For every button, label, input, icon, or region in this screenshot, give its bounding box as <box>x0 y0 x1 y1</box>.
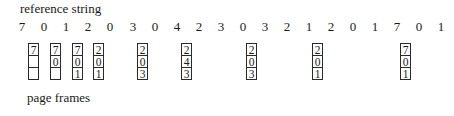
frame-cell: 3 <box>246 67 257 80</box>
frame-column: 7 0 1 <box>400 43 411 80</box>
frame-column: 2 0 3 <box>246 43 257 80</box>
reference-item: 2 <box>83 20 93 34</box>
reference-string-row: 7 0 1 2 0 3 0 4 2 3 0 3 2 1 2 0 1 7 0 1 <box>0 20 454 34</box>
page-frames-label: page frames <box>27 91 90 105</box>
reference-item: 0 <box>348 20 358 34</box>
frame-column: 2 4 3 <box>181 43 192 80</box>
reference-string-label: reference string <box>20 2 101 16</box>
frame-cell: 3 <box>181 67 192 80</box>
frame-column: 7 0 1 <box>72 43 83 80</box>
reference-item: 3 <box>260 20 270 34</box>
reference-item: 7 <box>17 20 27 34</box>
frame-column: 7 0 <box>50 43 61 80</box>
reference-item: 3 <box>128 20 138 34</box>
frame-cell: 1 <box>312 67 323 80</box>
frame-column: 2 0 1 <box>93 43 104 80</box>
frame-cell: 1 <box>72 67 83 80</box>
reference-item: 4 <box>172 20 182 34</box>
reference-item: 0 <box>150 20 160 34</box>
frame-cell <box>28 67 39 80</box>
frame-cell: 3 <box>137 67 148 80</box>
reference-item: 0 <box>414 20 424 34</box>
reference-item: 1 <box>436 20 446 34</box>
frame-column: 2 0 3 <box>137 43 148 80</box>
reference-item: 2 <box>194 20 204 34</box>
reference-item: 1 <box>370 20 380 34</box>
frame-cell: 1 <box>93 67 104 80</box>
frame-column: 7 <box>28 43 39 80</box>
reference-item: 0 <box>238 20 248 34</box>
frame-cell <box>50 67 61 80</box>
frame-cell: 1 <box>400 67 411 80</box>
reference-item: 7 <box>392 20 402 34</box>
frame-column: 2 0 1 <box>312 43 323 80</box>
reference-item: 2 <box>326 20 336 34</box>
reference-item: 0 <box>39 20 49 34</box>
reference-item: 1 <box>304 20 314 34</box>
reference-item: 2 <box>282 20 292 34</box>
reference-item: 3 <box>216 20 226 34</box>
reference-item: 0 <box>105 20 115 34</box>
reference-item: 1 <box>61 20 71 34</box>
